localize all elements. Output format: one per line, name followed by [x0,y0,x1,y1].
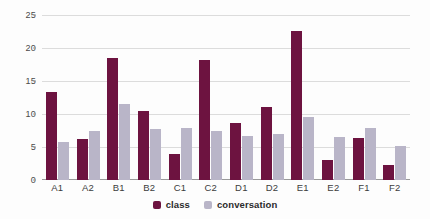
x-tick-label-E2: E2 [318,182,349,193]
x-tick-label-B2: B2 [134,182,165,193]
legend-label: conversation [217,199,277,210]
x-axis-labels: A1A2B1B2C1C2D1D2E1E2F1F2 [42,182,410,193]
x-tick-label-D2: D2 [257,182,288,193]
bar-class-E2 [322,160,333,180]
y-tick-mark [33,114,36,115]
bar-group [349,15,380,180]
legend-swatch-icon [153,201,161,209]
bar-class-A2 [77,139,88,180]
y-tick-label: 25 [6,10,36,20]
bar-class-D2 [261,107,272,180]
y-tick-label: 20 [6,43,36,53]
bar-chart: 0510152025 A1A2B1B2C1C2D1D2E1E2F1F2 clas… [0,0,430,219]
x-tick-label-A1: A1 [42,182,73,193]
bar-group [73,15,104,180]
bar-group [226,15,257,180]
y-tick-mark [33,147,36,148]
chart-legend: classconversation [0,199,430,210]
x-tick-label-E1: E1 [287,182,318,193]
bar-class-D1 [230,123,241,180]
bar-group [287,15,318,180]
bar-class-B2 [138,111,149,180]
y-tick-label: 5 [6,142,36,152]
bar-conversation-B2 [150,129,161,180]
bar-class-A1 [46,92,57,180]
bar-conversation-C2 [211,131,222,180]
bar-class-C2 [199,60,210,180]
bar-class-F2 [383,165,394,180]
bar-conversation-B1 [119,104,130,180]
bar-conversation-C1 [181,128,192,180]
legend-label: class [166,199,190,210]
bar-conversation-A1 [58,142,69,180]
bar-conversation-F1 [365,128,376,180]
x-tick-label-B1: B1 [103,182,134,193]
bar-conversation-D1 [242,136,253,180]
x-tick-label-D1: D1 [226,182,257,193]
x-tick-label-F2: F2 [379,182,410,193]
bar-class-B1 [107,58,118,180]
y-tick-label: 0 [6,175,36,185]
x-tick-label-C2: C2 [195,182,226,193]
y-tick-label: 15 [6,76,36,86]
bar-groups [42,15,410,180]
bar-group [42,15,73,180]
x-tick-label-A2: A2 [73,182,104,193]
bar-conversation-A2 [89,131,100,180]
legend-swatch-icon [204,201,212,209]
bar-class-F1 [353,138,364,180]
bar-conversation-F2 [395,146,406,180]
y-tick-mark [33,15,36,16]
y-tick-mark [33,180,36,181]
x-tick-label-C1: C1 [165,182,196,193]
bar-group [165,15,196,180]
y-axis: 0510152025 [0,15,36,180]
bar-group [257,15,288,180]
bar-group [134,15,165,180]
bar-conversation-E2 [334,137,345,180]
bar-class-C1 [169,154,180,180]
y-tick-label: 10 [6,109,36,119]
bar-group [318,15,349,180]
bar-group [103,15,134,180]
bar-class-E1 [291,31,302,180]
x-tick-label-F1: F1 [349,182,380,193]
y-tick-mark [33,81,36,82]
bar-conversation-D2 [273,134,284,180]
legend-item-conversation[interactable]: conversation [204,199,277,210]
bar-conversation-E1 [303,117,314,180]
bar-group [195,15,226,180]
y-tick-mark [33,48,36,49]
bar-group [379,15,410,180]
legend-item-class[interactable]: class [153,199,190,210]
